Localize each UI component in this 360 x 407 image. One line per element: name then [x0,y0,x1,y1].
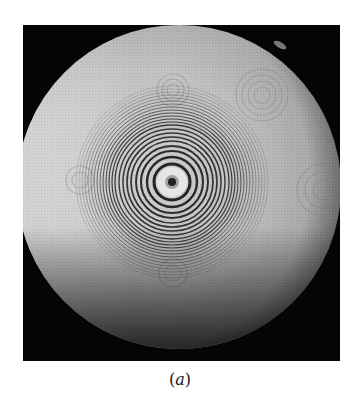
figure-caption: (a) [0,370,360,389]
interference-fringe-image [23,25,340,361]
caption-letter: a [175,370,185,389]
fringe-pattern-graphic [23,25,340,361]
caption-paren-close: ) [185,370,191,389]
